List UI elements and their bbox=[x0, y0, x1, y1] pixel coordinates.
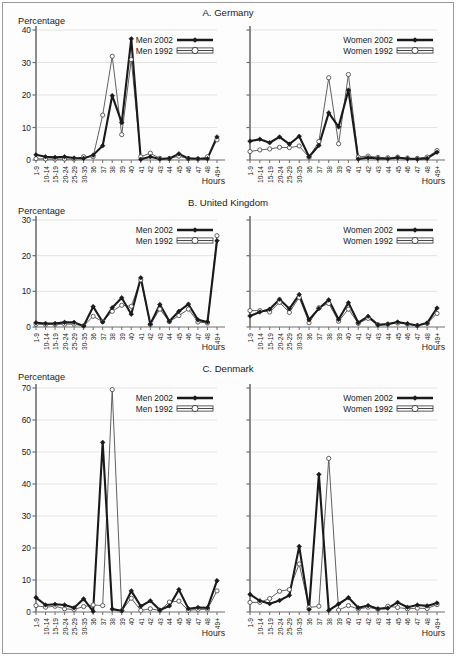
x-tick-label-45: 45 bbox=[395, 166, 402, 174]
marker-filled-diamond bbox=[62, 603, 67, 608]
x-tick-label-48: 48 bbox=[204, 618, 211, 626]
x-tick-label-1-9: 1-9 bbox=[247, 333, 254, 343]
x-tick-label-30-35: 30-35 bbox=[81, 166, 88, 183]
y-tick-label-10: 10 bbox=[22, 286, 32, 296]
legend-marker-filled-diamond bbox=[412, 37, 418, 43]
y-tick-label-30: 30 bbox=[22, 215, 32, 225]
marker-open-circle bbox=[258, 148, 262, 152]
marker-open-circle bbox=[34, 604, 38, 608]
x-tick-label-44: 44 bbox=[385, 166, 392, 174]
marker-open-circle bbox=[287, 588, 291, 592]
marker-open-circle bbox=[129, 57, 133, 61]
x-tick-label-39: 39 bbox=[336, 166, 343, 174]
x-tick-label-46: 46 bbox=[185, 333, 192, 341]
x-tick-label-47: 47 bbox=[414, 618, 421, 626]
x-tick-label-39: 39 bbox=[119, 333, 126, 341]
x-tick-label-25-29: 25-29 bbox=[286, 333, 293, 350]
x-tick-label-41: 41 bbox=[355, 618, 362, 626]
x-tick-label-10-14: 10-14 bbox=[257, 618, 264, 635]
y-tick-label-0: 0 bbox=[26, 607, 31, 617]
x-tick-label-36: 36 bbox=[306, 166, 313, 174]
x-tick-label-20-24: 20-24 bbox=[277, 618, 284, 635]
x-tick-label-47: 47 bbox=[195, 166, 202, 174]
multi-panel-line-chart: PercentageA. Germany0102030401-910-1415-… bbox=[0, 0, 456, 656]
x-tick-label-1-9: 1-9 bbox=[247, 166, 254, 176]
x-axis-caption: Hours bbox=[202, 628, 226, 638]
y-tick-label-20: 20 bbox=[22, 90, 32, 100]
marker-open-circle bbox=[297, 144, 301, 148]
x-tick-label-42: 42 bbox=[147, 166, 154, 174]
y-tick-label-30: 30 bbox=[22, 511, 32, 521]
legend-marker-open-circle bbox=[412, 47, 418, 53]
marker-open-circle bbox=[82, 604, 86, 608]
x-tick-label-46: 46 bbox=[185, 166, 192, 174]
legend-marker-open-circle bbox=[412, 405, 418, 411]
x-tick-label-42: 42 bbox=[147, 333, 154, 341]
x-tick-label-41: 41 bbox=[355, 333, 362, 341]
x-tick-label-47: 47 bbox=[414, 333, 421, 341]
x-tick-label-47: 47 bbox=[195, 618, 202, 626]
x-tick-label-45: 45 bbox=[395, 333, 402, 341]
marker-open-circle bbox=[101, 113, 105, 117]
marker-open-circle bbox=[186, 307, 190, 311]
marker-open-circle bbox=[346, 307, 350, 311]
plot-uk-men: 01020301-910-1415-1920-2425-2930-3536373… bbox=[22, 215, 226, 352]
x-tick-label-45: 45 bbox=[176, 618, 183, 626]
x-tick-label-42: 42 bbox=[365, 166, 372, 174]
x-tick-label-30-35: 30-35 bbox=[81, 618, 88, 635]
legend-label-men-2002: Men 2002 bbox=[136, 225, 174, 235]
x-tick-label-41: 41 bbox=[138, 618, 145, 626]
marker-open-circle bbox=[177, 313, 181, 317]
marker-open-circle bbox=[177, 599, 181, 603]
marker-open-circle bbox=[120, 303, 124, 307]
x-tick-label-36: 36 bbox=[90, 166, 97, 174]
x-tick-label-46: 46 bbox=[404, 166, 411, 174]
x-tick-label-38: 38 bbox=[326, 333, 333, 341]
legend-marker-open-circle bbox=[192, 405, 198, 411]
legend-marker-filled-diamond bbox=[192, 227, 198, 233]
x-tick-label-25-29: 25-29 bbox=[286, 166, 293, 183]
legend-marker-filled-diamond bbox=[412, 395, 418, 401]
marker-open-circle bbox=[327, 76, 331, 80]
x-tick-label-15-19: 15-19 bbox=[267, 333, 274, 350]
x-tick-label-25-29: 25-29 bbox=[286, 618, 293, 635]
x-tick-label-20-24: 20-24 bbox=[277, 333, 284, 350]
x-tick-label-1-9: 1-9 bbox=[33, 618, 40, 628]
marker-open-circle bbox=[110, 54, 114, 58]
marker-open-circle bbox=[248, 149, 252, 153]
x-tick-label-36: 36 bbox=[90, 333, 97, 341]
legend-label-men-1992: Men 1992 bbox=[136, 404, 174, 414]
x-tick-label-36: 36 bbox=[306, 333, 313, 341]
marker-filled-diamond bbox=[215, 238, 220, 243]
x-tick-label-46: 46 bbox=[185, 618, 192, 626]
marker-open-circle bbox=[91, 603, 95, 607]
marker-open-circle bbox=[91, 314, 95, 318]
y-tick-label-20: 20 bbox=[22, 543, 32, 553]
x-tick-label-20-24: 20-24 bbox=[277, 166, 284, 183]
plot-germany-men: 0102030401-910-1415-1920-2425-2930-35363… bbox=[22, 25, 226, 186]
marker-filled-diamond bbox=[248, 139, 253, 144]
legend-marker-filled-diamond bbox=[412, 227, 418, 233]
panel-title: A. Germany bbox=[202, 7, 253, 18]
x-tick-label-42: 42 bbox=[365, 618, 372, 626]
marker-filled-diamond bbox=[317, 472, 322, 477]
y-tick-label-40: 40 bbox=[22, 25, 32, 35]
x-tick-label-20-24: 20-24 bbox=[62, 618, 69, 635]
marker-open-circle bbox=[336, 142, 340, 146]
x-tick-label-40: 40 bbox=[128, 618, 135, 626]
marker-open-circle bbox=[248, 308, 252, 312]
figure-sheet: PercentageA. Germany0102030401-910-1415-… bbox=[0, 0, 456, 656]
x-tick-label-38: 38 bbox=[109, 618, 116, 626]
legend-label-men-2002: Men 2002 bbox=[136, 393, 174, 403]
marker-open-circle bbox=[158, 307, 162, 311]
plot-germany-women: 1-910-1415-1920-2425-2930-35363738394041… bbox=[247, 26, 446, 186]
marker-open-circle bbox=[248, 600, 252, 604]
x-tick-label-15-19: 15-19 bbox=[52, 166, 59, 183]
marker-open-circle bbox=[396, 605, 400, 609]
marker-open-circle bbox=[277, 589, 281, 593]
marker-open-circle bbox=[346, 72, 350, 76]
x-tick-label-44: 44 bbox=[166, 333, 173, 341]
marker-filled-diamond bbox=[110, 607, 115, 612]
x-tick-label-43: 43 bbox=[375, 618, 382, 626]
x-tick-label-46: 46 bbox=[404, 333, 411, 341]
